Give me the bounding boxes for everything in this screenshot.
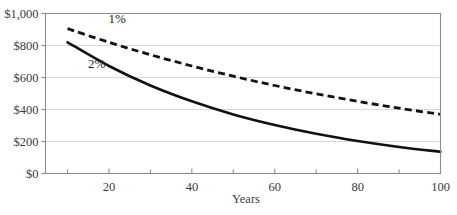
y-axis-tick-label: $800 (14, 39, 39, 53)
x-axis-tick-label: 80 (351, 180, 364, 194)
series-label-2pct: 2% (88, 56, 106, 71)
y-tickmark-group (42, 14, 46, 174)
series-label-1pct: 1% (109, 11, 127, 26)
x-axis-tick-label: 40 (186, 180, 199, 194)
y-axis-tick-label: $200 (14, 135, 39, 149)
x-axis-tick-label: 20 (103, 180, 116, 194)
series-curve-2pct (68, 42, 441, 151)
y-axis-tick-label: $600 (14, 71, 39, 85)
chart-figure: $0$200$400$600$800$1,000 20406080100 1%2… (0, 0, 457, 215)
y-axis-tick-label: $0 (26, 167, 39, 181)
y-axis-tick-label: $1,000 (4, 7, 38, 21)
x-axis-tick-label: 100 (431, 180, 450, 194)
x-tickmark-group (68, 169, 441, 174)
series-annotations: 1%2% (88, 11, 126, 71)
x-axis-tick-labels: 20406080100 (103, 180, 450, 194)
x-axis-title: Years (232, 192, 260, 206)
series-group (68, 29, 441, 152)
series-curve-1pct (68, 29, 441, 115)
x-axis-tick-label: 60 (269, 180, 282, 194)
y-axis-tick-label: $400 (14, 103, 39, 117)
plot-frame (46, 14, 441, 174)
y-axis-tick-labels: $0$200$400$600$800$1,000 (4, 7, 38, 181)
chart-plot: $0$200$400$600$800$1,000 20406080100 1%2… (0, 0, 457, 215)
